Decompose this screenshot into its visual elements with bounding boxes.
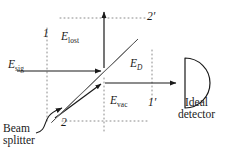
label-port-1-prime: 1′ — [148, 96, 156, 108]
e-d-symbol: E — [130, 57, 137, 69]
beam-splitter-label-line-2: splitter — [3, 134, 35, 146]
label-ideal-detector: Ideal detector — [178, 96, 215, 120]
e-sig-symbol: E — [8, 58, 15, 70]
label-beam-splitter: Beam splitter — [3, 122, 35, 146]
label-port-2: 2 — [61, 116, 67, 128]
detector-label-line-1: Ideal — [178, 96, 215, 108]
e-lost-symbol: E — [61, 30, 68, 42]
beam-splitter-pointer-arrow — [36, 108, 62, 133]
label-e-sig: Esig — [8, 58, 24, 73]
label-e-d: ED — [130, 57, 142, 72]
label-port-1: 1 — [43, 27, 49, 39]
label-e-lost: Elost — [61, 30, 79, 45]
label-port-2-prime: 2′ — [147, 10, 155, 22]
beam-splitter-plate — [52, 39, 139, 123]
e-lost-subscript: lost — [68, 36, 79, 45]
e-d-subscript: D — [137, 63, 142, 72]
label-e-vac: Evac — [110, 94, 128, 109]
e-vac-symbol: E — [110, 94, 117, 106]
detector-label-line-2: detector — [178, 108, 215, 120]
beam-splitter-label-line-1: Beam — [3, 122, 35, 134]
e-sig-subscript: sig — [15, 64, 24, 73]
e-vac-subscript: vac — [117, 100, 128, 109]
beam-splitter-figure: Esig Elost Evac ED 1 2 1′ 2′ Beam splitt… — [0, 0, 231, 154]
